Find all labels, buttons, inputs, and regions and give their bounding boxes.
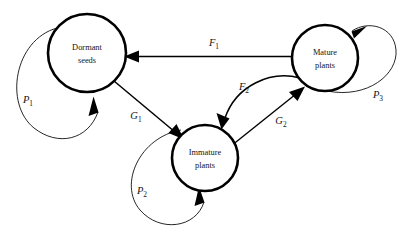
edge-G1: G1	[114, 81, 184, 140]
node-dormant-seeds-circle[interactable]	[48, 14, 126, 92]
edge-G2-arrowhead	[289, 87, 305, 102]
self-loop-P1-arrowhead	[89, 97, 99, 117]
edge-F1: F1	[124, 37, 293, 62]
self-loop-P2-subscript: 2	[143, 190, 147, 199]
edge-G1-label: G1	[130, 110, 142, 123]
node-dormant-seeds-label-line2: seeds	[78, 56, 96, 65]
node-mature-plants-label-line2: plants	[315, 61, 335, 70]
edge-G2-label: G2	[275, 115, 287, 128]
diagram-canvas: P1 P2 P3 F1	[0, 0, 413, 238]
node-dormant-seeds-label-line1: Dormant	[72, 43, 102, 52]
life-cycle-diagram: P1 P2 P3 F1	[0, 0, 413, 238]
edge-F2: F2	[217, 76, 301, 130]
node-immature-plants-label-line1: Immature	[189, 148, 222, 157]
self-loop-P2-label: P2	[136, 185, 147, 198]
self-loop-P3-label: P3	[372, 89, 383, 102]
edge-G2-subscript: 2	[283, 120, 287, 129]
edge-G1-path	[114, 81, 175, 132]
edge-F1-label: F1	[208, 37, 219, 50]
node-dormant-seeds[interactable]: Dormant seeds	[48, 14, 126, 92]
self-loop-P1-label: P1	[22, 94, 33, 107]
self-loop-P3-arrowhead	[352, 26, 368, 39]
node-immature-plants-circle[interactable]	[172, 125, 238, 191]
edge-F2-subscript: 2	[245, 86, 249, 95]
self-loop-P3-subscript: 3	[379, 94, 383, 103]
node-immature-plants[interactable]: Immature plants	[172, 125, 238, 191]
edge-G1-subscript: 1	[138, 115, 142, 124]
node-mature-plants-label-line1: Mature	[313, 48, 337, 57]
node-mature-plants-circle[interactable]	[292, 25, 358, 91]
edge-F2-label: F2	[238, 81, 249, 94]
node-mature-plants[interactable]: Mature plants	[292, 25, 358, 91]
node-immature-plants-label-line2: plants	[195, 161, 215, 170]
self-loop-P1-subscript: 1	[29, 99, 33, 108]
edge-F2-path	[225, 76, 300, 118]
edge-F1-subscript: 1	[215, 42, 219, 51]
edge-G2: G2	[231, 87, 305, 147]
